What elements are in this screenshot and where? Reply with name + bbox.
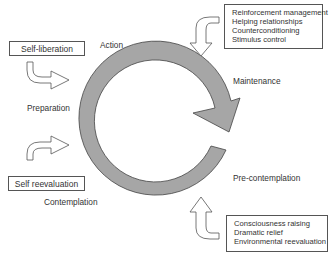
cycle-arrow-icon [79,41,240,195]
process-item: Helping relationships [232,17,322,26]
process-item: Environmental reevaluation [234,237,327,246]
precontemplation-processes-box: Consciousness raising Dramatic relief En… [226,215,328,252]
self-liberation-arrow-icon [27,62,69,89]
self-liberation-box: Self-liberation [9,41,85,56]
stages-of-change-diagram: Self-liberation Self reevaluation Reinfo… [0,0,335,257]
stage-contemplation: Contemplation [44,197,98,207]
stage-preparation: Preparation [27,103,70,113]
precontemplation-arrow-icon [190,197,219,239]
action-maintenance-arrow-icon [190,17,219,56]
process-item: Reinforcement management [232,8,322,17]
process-item: Consciousness raising [234,219,327,228]
stage-maintenance: Maintenance [233,76,281,86]
stage-action: Action [100,40,123,50]
process-item: Counterconditioning [232,26,322,35]
process-item: Stimulus control [232,35,322,44]
self-liberation-label: Self-liberation [21,44,73,54]
self-reevaluation-box: Self reevaluation [8,176,85,191]
self-reevaluation-label: Self reevaluation [15,179,78,189]
action-maintenance-processes-box: Reinforcement management Helping relatio… [224,4,323,49]
process-item: Dramatic relief [234,228,327,237]
stage-precontemplation: Pre-contemplation [233,173,300,183]
self-reevaluation-arrow-icon [27,136,69,160]
